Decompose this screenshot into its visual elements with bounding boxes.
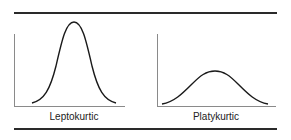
bottom-rule	[14, 128, 277, 130]
platykurtic-axes	[157, 34, 276, 107]
platykurtic-curve	[162, 71, 268, 104]
platykurtic-label: Platykurtic	[166, 111, 266, 122]
leptokurtic-axes	[14, 34, 125, 107]
leptokurtic-label: Leptokurtic	[24, 111, 124, 122]
leptokurtic-curve	[32, 22, 116, 103]
